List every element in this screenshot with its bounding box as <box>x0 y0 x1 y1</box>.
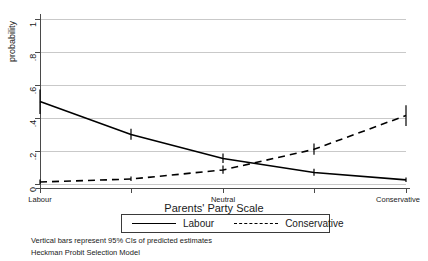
legend-label-labour: Labour <box>183 218 214 229</box>
chart-legend: Labour Conservative <box>121 214 330 233</box>
legend-entry-conservative: Conservative <box>234 218 343 229</box>
legend-line-solid-icon <box>132 223 176 224</box>
chart-figure: 1 .8 .6 .4 .2 0 probability Labour Neutr… <box>0 0 428 261</box>
legend-line-dashed-icon <box>234 223 278 224</box>
note-model: Heckman Probit Selection Model <box>31 248 140 257</box>
note-ci: Vertical bars represent 95% CIs of predi… <box>31 236 212 245</box>
legend-label-conservative: Conservative <box>285 218 343 229</box>
legend-entry-labour: Labour <box>132 218 214 229</box>
